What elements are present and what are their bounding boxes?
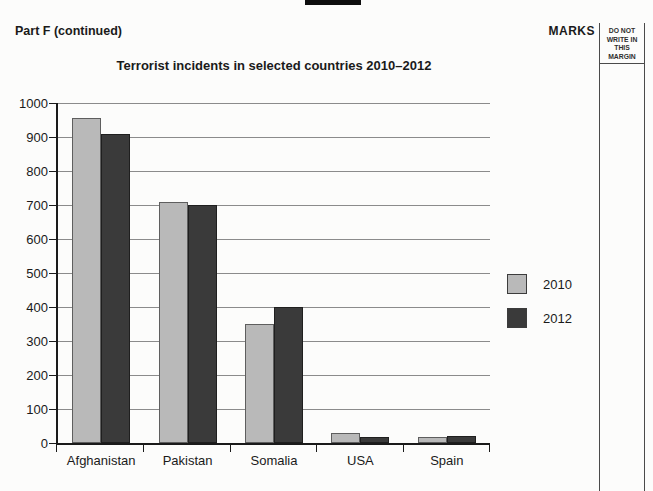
bar-2010-pakistan bbox=[159, 202, 188, 443]
y-tick-400 bbox=[49, 307, 58, 308]
y-axis-label-700: 700 bbox=[0, 198, 48, 213]
margin-note-text: DO NOT WRITE IN THIS MARGIN bbox=[600, 23, 644, 61]
do-not-write-margin: DO NOT WRITE IN THIS MARGIN bbox=[599, 23, 645, 491]
x-tick-5 bbox=[489, 445, 490, 452]
y-axis-label-900: 900 bbox=[0, 130, 48, 145]
legend-label-2010: 2010 bbox=[543, 277, 572, 292]
y-tick-800 bbox=[49, 171, 58, 172]
legend-swatch-2012 bbox=[507, 308, 527, 328]
x-tick-1 bbox=[143, 445, 144, 452]
y-axis-label-200: 200 bbox=[0, 368, 48, 383]
y-axis-label-300: 300 bbox=[0, 334, 48, 349]
page-fold-mark bbox=[305, 0, 361, 5]
x-axis-label-usa: USA bbox=[317, 453, 403, 468]
gridline-1000 bbox=[58, 103, 490, 104]
x-tick-0 bbox=[56, 445, 57, 452]
plot-area: 01002003004005006007008009001000Afghanis… bbox=[58, 103, 490, 443]
x-axis-label-afghanistan: Afghanistan bbox=[58, 453, 144, 468]
y-tick-200 bbox=[49, 375, 58, 376]
legend: 2010 2012 bbox=[507, 274, 572, 328]
bar-2012-usa bbox=[360, 437, 389, 443]
y-tick-100 bbox=[49, 409, 58, 410]
y-axis-label-1000: 1000 bbox=[0, 96, 48, 111]
y-axis-label-100: 100 bbox=[0, 402, 48, 417]
bar-2012-spain bbox=[447, 436, 476, 443]
x-tick-2 bbox=[230, 445, 231, 452]
x-axis-label-spain: Spain bbox=[404, 453, 490, 468]
y-axis-label-400: 400 bbox=[0, 300, 48, 315]
part-header: Part F (continued) bbox=[15, 24, 122, 38]
y-tick-500 bbox=[49, 273, 58, 274]
y-axis-label-500: 500 bbox=[0, 266, 48, 281]
x-tick-3 bbox=[316, 445, 317, 452]
y-axis-label-600: 600 bbox=[0, 232, 48, 247]
legend-label-2012: 2012 bbox=[543, 311, 572, 326]
bar-2012-afghanistan bbox=[101, 134, 130, 443]
bar-2012-pakistan bbox=[188, 205, 217, 443]
chart-title: Terrorist incidents in selected countrie… bbox=[58, 58, 490, 73]
y-tick-1000 bbox=[49, 103, 58, 104]
y-tick-600 bbox=[49, 239, 58, 240]
bar-2012-somalia bbox=[274, 307, 303, 443]
y-tick-700 bbox=[49, 205, 58, 206]
y-tick-900 bbox=[49, 137, 58, 138]
y-axis-label-0: 0 bbox=[0, 436, 48, 451]
y-tick-300 bbox=[49, 341, 58, 342]
marks-label: MARKS bbox=[475, 24, 595, 38]
bar-2010-spain bbox=[418, 437, 447, 443]
x-axis-line bbox=[56, 443, 490, 445]
legend-item-2010: 2010 bbox=[507, 274, 572, 294]
margin-divider bbox=[600, 63, 644, 64]
x-axis-label-somalia: Somalia bbox=[231, 453, 317, 468]
x-axis-label-pakistan: Pakistan bbox=[144, 453, 230, 468]
y-axis-line bbox=[56, 103, 58, 445]
bar-2010-usa bbox=[331, 433, 360, 443]
legend-item-2012: 2012 bbox=[507, 308, 572, 328]
bar-2010-somalia bbox=[245, 324, 274, 443]
bar-2010-afghanistan bbox=[72, 118, 101, 443]
x-tick-4 bbox=[403, 445, 404, 452]
y-axis-label-800: 800 bbox=[0, 164, 48, 179]
y-tick-0 bbox=[49, 443, 58, 444]
legend-swatch-2010 bbox=[507, 274, 527, 294]
